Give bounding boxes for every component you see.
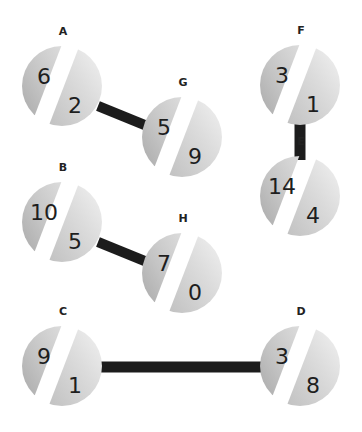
node-right-value: 8	[306, 373, 320, 398]
node-left-value: 5	[157, 115, 171, 140]
node-right-half	[161, 213, 245, 333]
node-left-value: 7	[157, 251, 171, 276]
node-label: H	[178, 212, 187, 225]
node-label: D	[296, 305, 305, 318]
node-left-half	[0, 26, 69, 146]
node-left-value: 3	[275, 344, 289, 369]
node-right-value: 5	[68, 229, 82, 254]
node-left-value: 9	[37, 344, 51, 369]
node-right-value: 1	[68, 373, 82, 398]
node-a: A62	[0, 25, 125, 146]
node-label: B	[59, 161, 67, 174]
node-right-half	[279, 306, 362, 426]
node-right-value: 0	[188, 280, 202, 305]
node-left-value: 10	[30, 200, 58, 225]
node-left-value: 6	[37, 64, 51, 89]
graph-diagram: A62G59F31E144B105H70C91D38	[0, 0, 362, 432]
node-label: A	[59, 25, 68, 38]
node-right-half	[41, 26, 125, 146]
node-right-half	[279, 25, 362, 145]
node-b: B105	[0, 161, 125, 282]
node-left-value: 14	[268, 174, 296, 199]
node-g: G59	[119, 76, 245, 197]
node-right-value: 2	[68, 93, 82, 118]
node-right-half	[161, 77, 245, 197]
node-label: E	[297, 135, 305, 148]
node-label: C	[59, 305, 67, 318]
node-left-half	[119, 213, 189, 333]
node-h: H70	[119, 212, 245, 333]
node-right-value: 4	[306, 203, 320, 228]
node-label: G	[178, 76, 187, 89]
node-left-half	[0, 306, 69, 426]
edge-a-g	[98, 106, 152, 128]
node-label: F	[297, 24, 305, 37]
edge-b-h	[98, 242, 152, 264]
node-left-half	[119, 77, 189, 197]
node-left-value: 3	[275, 63, 289, 88]
node-right-value: 1	[306, 92, 320, 117]
node-right-value: 9	[188, 144, 202, 169]
